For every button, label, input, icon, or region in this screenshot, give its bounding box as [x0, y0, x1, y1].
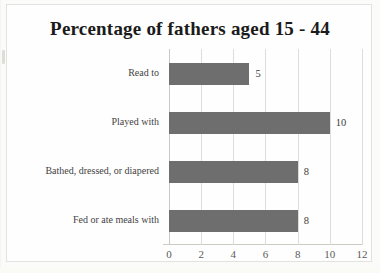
scan-speckle-artifact — [2, 50, 5, 64]
x-tick-label: 6 — [263, 248, 269, 260]
bar — [169, 112, 330, 134]
category-label: Bathed, dressed, or diapered — [9, 165, 159, 176]
plot-area: 51088 — [163, 49, 363, 245]
x-tick-label: 2 — [198, 248, 204, 260]
bar-value-label: 8 — [304, 161, 309, 183]
category-axis-labels: Read toPlayed withBathed, dressed, or di… — [7, 49, 159, 245]
bar-value-label: 10 — [336, 112, 347, 134]
chart-page: Percentage of fathers aged 15 - 44 Read … — [6, 4, 372, 262]
category-label: Read to — [9, 67, 159, 78]
bar — [169, 210, 298, 232]
x-tick-label: 0 — [166, 248, 172, 260]
category-label: Fed or ate meals with — [9, 214, 159, 225]
bar-value-label: 5 — [255, 63, 260, 85]
chart-title: Percentage of fathers aged 15 - 44 — [7, 18, 373, 40]
scan-edge-artifact — [0, 0, 2, 273]
gridline-12 — [362, 49, 363, 245]
bar — [169, 161, 298, 183]
x-tick-label: 10 — [324, 248, 335, 260]
gridline-8 — [298, 49, 299, 245]
chart-screenshot: Percentage of fathers aged 15 - 44 Read … — [0, 0, 380, 273]
category-label: Played with — [9, 116, 159, 127]
x-axis-line — [163, 244, 363, 245]
bar-value-label: 8 — [304, 210, 309, 232]
x-tick-label: 8 — [295, 248, 301, 260]
gridline-10 — [330, 49, 331, 245]
bar — [169, 63, 249, 85]
x-tick-label: 12 — [356, 248, 367, 260]
scan-bottom-artifact — [0, 267, 380, 273]
x-tick-label: 4 — [231, 248, 237, 260]
